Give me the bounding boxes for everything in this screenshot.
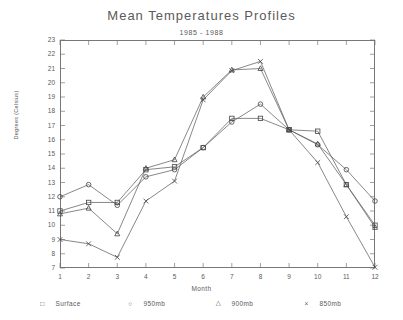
legend-label: Surface bbox=[56, 300, 110, 307]
legend-marker-icon: △ bbox=[206, 299, 232, 307]
legend-label: 900mb bbox=[232, 300, 286, 307]
series-Surface bbox=[58, 116, 377, 227]
legend-item-Surface: □Surface bbox=[30, 300, 110, 307]
x-tick-label: 9 bbox=[280, 273, 298, 280]
y-axis-label: Degrees (Celsius) bbox=[13, 75, 19, 155]
legend-marker-icon: × bbox=[294, 300, 320, 307]
x-tick-label: 4 bbox=[137, 273, 155, 280]
y-tick-label: 16 bbox=[33, 136, 55, 143]
chart-subtitle: 1985 - 1988 bbox=[0, 29, 403, 36]
legend-item-950mb: ○950mb bbox=[118, 300, 198, 307]
y-tick-label: 14 bbox=[33, 164, 55, 171]
x-tick-label: 1 bbox=[51, 273, 69, 280]
x-tick-label: 2 bbox=[80, 273, 98, 280]
x-axis-label: Month bbox=[0, 285, 403, 292]
x-tick-label: 6 bbox=[194, 273, 212, 280]
y-tick-label: 11 bbox=[33, 207, 55, 214]
legend-label: 850mb bbox=[320, 300, 374, 307]
y-tick-label: 12 bbox=[33, 193, 55, 200]
series-900mb bbox=[58, 66, 378, 236]
series-950mb bbox=[58, 102, 378, 208]
x-tick-label: 10 bbox=[309, 273, 327, 280]
x-tick-label: 7 bbox=[223, 273, 241, 280]
chart-root: Mean Temperatures Profiles 1985 - 1988 D… bbox=[0, 0, 403, 320]
y-tick-label: 9 bbox=[33, 236, 55, 243]
y-tick-label: 21 bbox=[33, 65, 55, 72]
legend-item-900mb: △900mb bbox=[206, 299, 286, 307]
y-tick-label: 10 bbox=[33, 221, 55, 228]
legend-marker-icon: □ bbox=[30, 300, 56, 307]
y-tick-label: 8 bbox=[33, 250, 55, 257]
y-tick-label: 19 bbox=[33, 93, 55, 100]
legend-label: 950mb bbox=[144, 300, 198, 307]
y-tick-label: 7 bbox=[33, 264, 55, 271]
x-tick-label: 5 bbox=[166, 273, 184, 280]
y-tick-label: 18 bbox=[33, 107, 55, 114]
y-tick-label: 23 bbox=[33, 36, 55, 43]
series-850mb bbox=[58, 59, 378, 270]
chart-title: Mean Temperatures Profiles bbox=[0, 8, 403, 23]
x-tick-label: 8 bbox=[251, 273, 269, 280]
x-tick-label: 12 bbox=[366, 273, 384, 280]
y-tick-label: 17 bbox=[33, 122, 55, 129]
y-tick-label: 20 bbox=[33, 79, 55, 86]
y-tick-label: 13 bbox=[33, 179, 55, 186]
y-tick-label: 15 bbox=[33, 150, 55, 157]
legend-marker-icon: ○ bbox=[118, 300, 144, 307]
chart-legend: □Surface○950mb△900mb×850mb bbox=[0, 299, 403, 307]
x-tick-label: 11 bbox=[337, 273, 355, 280]
legend-item-850mb: ×850mb bbox=[294, 300, 374, 307]
plot-area bbox=[60, 40, 375, 268]
x-tick-label: 3 bbox=[108, 273, 126, 280]
y-tick-label: 22 bbox=[33, 50, 55, 57]
